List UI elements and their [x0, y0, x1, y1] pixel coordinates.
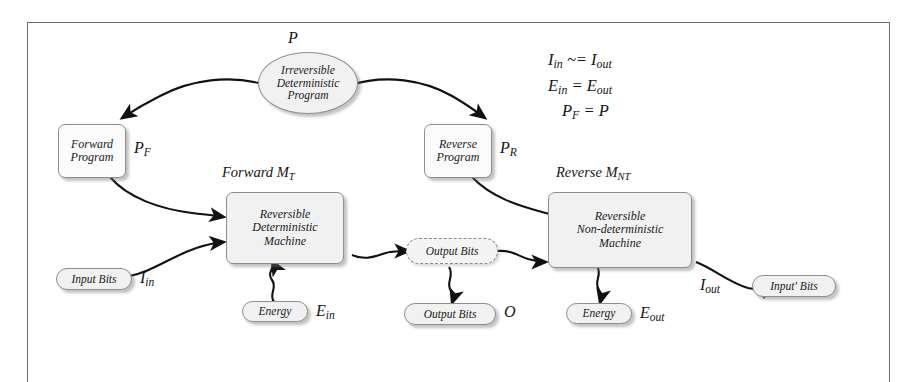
node-reverse-reversible-nondeterministic-machine[interactable]: Reversible Non-deterministic Machine	[548, 192, 692, 268]
equation-row: Ein = Eout	[548, 74, 612, 100]
node-output-bits-virtual[interactable]: Output Bits	[406, 238, 498, 264]
node-reverse-program-label: Reverse Program	[437, 138, 480, 165]
node-energy-in-label: Energy	[259, 305, 292, 318]
label-output-bits-symbol: O	[504, 304, 516, 321]
label-program-symbol: P	[288, 30, 298, 47]
node-forward-program-label: Forward Program	[71, 138, 114, 165]
node-input-prime-bits[interactable]: Input' Bits	[752, 275, 836, 297]
label-input-bits-symbol: Iin	[140, 270, 154, 288]
equation-row: Iin ~= Iout	[548, 48, 612, 74]
label-energy-out-symbol: Eout	[640, 305, 665, 323]
node-output-bits-record-label: Output Bits	[424, 308, 477, 321]
label-energy-in-symbol: Ein	[316, 303, 335, 321]
label-reverse-program-symbol: PR	[500, 140, 517, 158]
node-energy-out[interactable]: Energy	[566, 303, 632, 324]
node-forward-reversible-deterministic-machine[interactable]: Reversible Deterministic Machine	[226, 192, 344, 264]
node-input-bits[interactable]: Input Bits	[56, 268, 132, 290]
node-output-bits-virtual-label: Output Bits	[426, 245, 479, 258]
label-output-flow-symbol: Iout	[700, 277, 720, 295]
node-input-prime-bits-label: Input' Bits	[770, 280, 818, 293]
node-output-bits-record[interactable]: Output Bits	[404, 303, 496, 325]
label-forward-machine-caption: Forward MT	[222, 165, 295, 183]
node-reverse-program[interactable]: Reverse Program	[424, 124, 492, 178]
node-irreversible-deterministic-program-label: Irreversible Deterministic Program	[277, 64, 340, 103]
node-forward-program[interactable]: Forward Program	[58, 124, 126, 178]
diagram-frame	[27, 22, 890, 382]
node-input-bits-label: Input Bits	[71, 273, 116, 286]
node-forward-machine-label: Reversible Deterministic Machine	[252, 208, 317, 248]
equation-block: Iin ~= Iout Ein = Eout PF = P	[548, 48, 612, 125]
label-forward-program-symbol: PF	[134, 140, 151, 158]
node-energy-out-label: Energy	[583, 307, 616, 320]
equation-row: PF = P	[548, 99, 612, 125]
node-irreversible-deterministic-program[interactable]: Irreversible Deterministic Program	[258, 52, 358, 114]
label-reverse-machine-caption: Reverse MNT	[556, 165, 630, 183]
node-energy-in[interactable]: Energy	[242, 301, 308, 322]
node-reverse-machine-label: Reversible Non-deterministic Machine	[577, 210, 664, 250]
